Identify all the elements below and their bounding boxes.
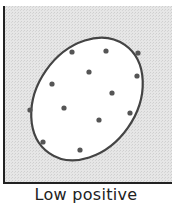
data-point — [86, 69, 91, 74]
data-point — [135, 50, 140, 55]
data-point — [77, 147, 82, 152]
data-point — [49, 81, 54, 86]
chart-caption: Low positive — [0, 185, 172, 204]
data-point — [40, 139, 45, 144]
data-point — [27, 107, 32, 112]
scatter-diagram — [0, 0, 172, 206]
data-point — [134, 73, 139, 78]
data-point — [61, 105, 66, 110]
data-point — [96, 117, 101, 122]
data-point — [69, 49, 74, 54]
data-point — [103, 48, 108, 53]
data-point — [109, 90, 114, 95]
data-point — [127, 110, 132, 115]
